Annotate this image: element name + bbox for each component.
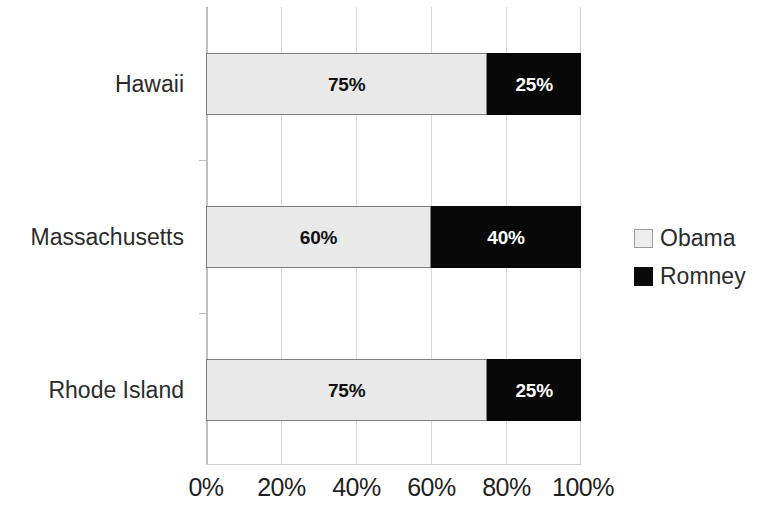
table-row[interactable]: 75% 25%: [206, 53, 581, 115]
category-label-hawaii: Hawaii: [0, 73, 184, 96]
x-axis-line: [206, 464, 581, 465]
category-label-rhode-island: Rhode Island: [0, 379, 184, 402]
bar-label-obama: 75%: [328, 75, 365, 94]
legend-swatch-romney-icon: [634, 267, 653, 286]
legend-label-romney: Romney: [660, 265, 746, 288]
legend-swatch-obama-icon: [634, 229, 653, 248]
x-tick-label-60: 60%: [394, 475, 469, 500]
table-row[interactable]: 60% 40%: [206, 206, 581, 268]
legend: Obama Romney: [634, 219, 769, 295]
bar-segment-obama[interactable]: 75%: [206, 359, 487, 421]
bar-label-romney: 25%: [515, 75, 552, 94]
x-tick-label-100: 100%: [539, 475, 627, 500]
bar-label-obama: 60%: [300, 228, 337, 247]
bar-segment-romney[interactable]: 25%: [487, 359, 581, 421]
y-axis-tick-2: [199, 313, 206, 314]
legend-item-romney[interactable]: Romney: [634, 257, 769, 295]
stacked-bar-chart: 75% 25% 60% 40% 75% 25% Hawaii Mas: [0, 0, 769, 518]
bar-segment-obama[interactable]: 60%: [206, 206, 431, 268]
bar-label-romney: 25%: [515, 381, 552, 400]
bar-segment-obama[interactable]: 75%: [206, 53, 487, 115]
x-tick-label-0: 0%: [176, 475, 236, 500]
x-tick-label-80: 80%: [469, 475, 544, 500]
x-tick-label-20: 20%: [244, 475, 319, 500]
y-axis-tick-1: [199, 160, 206, 161]
bar-segment-romney[interactable]: 40%: [431, 206, 581, 268]
plot-area: 75% 25% 60% 40% 75% 25%: [206, 7, 581, 465]
x-tick-label-40: 40%: [319, 475, 394, 500]
bar-segment-romney[interactable]: 25%: [487, 53, 581, 115]
bar-label-romney: 40%: [487, 228, 524, 247]
bar-label-obama: 75%: [328, 381, 365, 400]
legend-item-obama[interactable]: Obama: [634, 219, 769, 257]
category-label-massachusetts: Massachusetts: [0, 226, 184, 249]
table-row[interactable]: 75% 25%: [206, 359, 581, 421]
x-axis-labels: 0% 20% 40% 60% 80% 100%: [176, 475, 616, 515]
legend-label-obama: Obama: [660, 227, 735, 250]
